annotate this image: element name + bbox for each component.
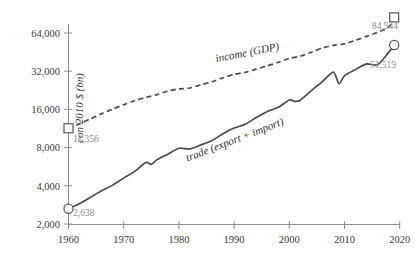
y-tick-label-4000: 4,000: [36, 181, 60, 192]
value-label-trade-end: 51,519: [370, 60, 396, 70]
x-tick-label-1990: 1990: [224, 234, 245, 245]
y-tick-label-32000: 32,000: [31, 66, 60, 77]
marker-income-gdp-start: [64, 124, 73, 133]
value-label-trade-start: 2,638: [73, 208, 95, 218]
y-tick-label-8000: 8,000: [36, 142, 60, 153]
y-tick-label-2000: 2,000: [36, 219, 60, 230]
series-annotation-trade: trade (export + import): [184, 115, 286, 164]
x-tick-label-2020: 2020: [389, 234, 410, 245]
x-tick-label-1980: 1980: [168, 234, 189, 245]
marker-trade-end: [390, 40, 399, 49]
y-tick-label-64000: 64,000: [31, 28, 60, 39]
x-tick-label-2010: 2010: [334, 234, 355, 245]
x-axis-group: 1960 1970 1980 1990 2000 2010 2020: [58, 221, 410, 245]
y-axis-group: 64,000 32,000 16,000 8,000 4,000 2,000 c…: [31, 24, 86, 230]
series-annotation-income-gdp: income (GDP): [214, 40, 280, 65]
value-label-income-gdp-start: 11,356: [73, 134, 99, 144]
x-tick-label-2000: 2000: [279, 234, 300, 245]
series-line-trade: [69, 45, 395, 209]
x-tick-label-1970: 1970: [113, 234, 134, 245]
y-tick-label-16000: 16,000: [31, 104, 60, 115]
series-line-income-gdp: [69, 17, 395, 128]
marker-trade-start: [64, 204, 73, 213]
value-label-income-gdp-end: 84,944: [372, 21, 398, 31]
y-axis-title: con 2010 $ (bn): [73, 73, 86, 143]
chart-container: 64,000 32,000 16,000 8,000 4,000 2,000 c…: [0, 0, 417, 255]
line-chart-svg: 64,000 32,000 16,000 8,000 4,000 2,000 c…: [0, 0, 417, 255]
x-tick-label-1960: 1960: [58, 234, 79, 245]
